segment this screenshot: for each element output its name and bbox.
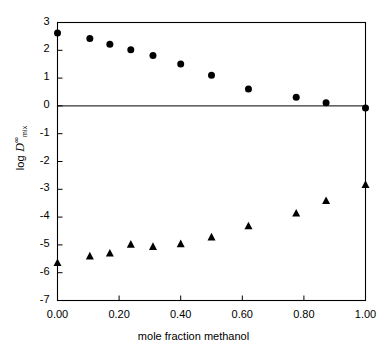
data-point [323, 99, 330, 106]
data-point [106, 41, 113, 48]
y-axis-title-superscript: ∞ [12, 137, 21, 143]
data-point [245, 85, 252, 92]
x-tick-label: 1.00 [344, 308, 387, 320]
y-tick-label: -5 [24, 237, 50, 249]
y-tick-label: 1 [24, 70, 50, 82]
x-tick-label: 0.80 [282, 308, 326, 320]
scatter-plot-canvas [0, 0, 387, 359]
data-point [127, 46, 134, 53]
x-axis-title: mole fraction methanol [0, 330, 387, 342]
y-tick-label: 3 [24, 15, 50, 27]
y-axis-title-symbol: D [13, 143, 27, 152]
x-tick-label: 0.00 [36, 308, 80, 320]
x-tick-label: 0.20 [97, 308, 141, 320]
x-tick-label: 0.60 [220, 308, 264, 320]
y-axis-title: log D∞mix [12, 88, 28, 208]
y-axis-title-prefix: log [14, 152, 26, 171]
y-axis-title-subscript: mix [21, 126, 28, 138]
y-tick-label: -6 [24, 265, 50, 277]
data-point [149, 52, 156, 59]
y-tick-label: -4 [24, 209, 50, 221]
data-point [208, 72, 215, 79]
data-point [86, 35, 93, 42]
y-tick-label: 2 [24, 42, 50, 54]
plot-frame [58, 23, 366, 301]
data-point [362, 105, 369, 112]
y-tick-label: -7 [24, 293, 50, 305]
data-point [293, 94, 300, 101]
x-tick-label: 0.40 [159, 308, 203, 320]
data-point [177, 60, 184, 67]
data-point [54, 30, 61, 37]
chart-figure: 3210-1-2-3-4-5-6-7 0.000.200.400.600.801… [0, 0, 387, 359]
